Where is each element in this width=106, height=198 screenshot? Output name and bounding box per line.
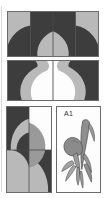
figure-root: A1 [0, 0, 106, 198]
four-unit-strip-artwork [8, 12, 98, 56]
two-unit-strip-artwork [8, 61, 98, 100]
four-patch-artwork [7, 107, 51, 192]
left-margin-rule [1, 6, 2, 192]
panel-four-patch-block [6, 106, 52, 193]
motif-block-label: A1 [64, 110, 73, 118]
panel-motif-block: A1 [56, 106, 101, 193]
panel-two-unit-strip [7, 60, 99, 101]
motif-artwork [57, 107, 100, 192]
panel-four-unit-strip [7, 11, 99, 57]
